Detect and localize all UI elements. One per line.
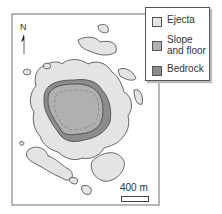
legend-label: Slope and floor: [167, 34, 206, 56]
scale-label: 400 m: [120, 182, 148, 193]
ejecta-patch: [20, 141, 24, 145]
slope-floor-swatch: [152, 41, 162, 51]
legend-label: Ejecta: [167, 14, 195, 25]
legend-label: Bedrock: [167, 63, 204, 74]
ejecta-patch: [23, 69, 30, 75]
scale-bar: [121, 196, 149, 202]
legend-item-ejecta: Ejecta: [152, 14, 195, 27]
bedrock-swatch: [152, 66, 162, 76]
legend-item-bedrock: Bedrock: [152, 63, 204, 76]
ejecta-patch: [43, 63, 50, 69]
north-label: N: [20, 22, 27, 32]
legend-item-slope-floor: Slope and floor: [152, 34, 206, 56]
legend: Ejecta Slope and floor Bedrock: [145, 7, 210, 81]
ejecta-swatch: [152, 17, 162, 27]
